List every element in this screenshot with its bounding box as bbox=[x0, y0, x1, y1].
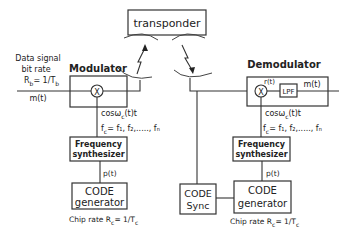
transponder-block: transponder bbox=[128, 10, 206, 35]
modulator-mixer-icon: X bbox=[91, 85, 103, 97]
svg-text:CODE: CODE bbox=[248, 185, 277, 196]
rx-input-line bbox=[190, 78, 255, 91]
rx-chip-rate-label: Chip rate Rc= 1/Tc bbox=[230, 217, 299, 228]
signal-out-label: m(t) bbox=[303, 80, 320, 89]
tx-pn-label: p(t) bbox=[103, 169, 117, 178]
rx-frequency-synthesizer-block: Frequency synthesizer bbox=[233, 137, 290, 161]
rx-freq-set-label: fc= f₁, f₂,....., fₙ bbox=[263, 124, 322, 135]
tx-code-generator-block: CODE generator bbox=[72, 183, 127, 209]
rx-code-generator-block: CODE generator bbox=[234, 181, 291, 213]
input-label-line2: bit rate bbox=[21, 65, 50, 74]
svg-text:generator: generator bbox=[238, 198, 288, 209]
code-sync-block: CODE Sync bbox=[180, 184, 216, 214]
tx-frequency-synthesizer-block: Frequency synthesizer bbox=[70, 137, 127, 161]
svg-text:Rb= 1/Tb: Rb= 1/Tb bbox=[24, 76, 59, 87]
lpf-block: LPF bbox=[280, 84, 297, 97]
modulator-label: Modulator bbox=[69, 63, 127, 74]
svg-text:synthesizer: synthesizer bbox=[72, 150, 124, 159]
demodulator-mixer-icon: X bbox=[255, 85, 267, 97]
svg-text:Sync: Sync bbox=[187, 200, 210, 211]
svg-text:LPF: LPF bbox=[282, 88, 294, 96]
mixer-output-label: r(t) bbox=[264, 78, 275, 86]
rx-pn-label: p(t) bbox=[266, 169, 280, 178]
tx-freq-set-label: fc= f₁, f₂,....., fₙ bbox=[101, 124, 160, 135]
transponder-label: transponder bbox=[133, 17, 201, 30]
demodulator-label: Demodulator bbox=[247, 59, 320, 70]
svg-text:Frequency: Frequency bbox=[238, 140, 286, 149]
svg-text:X: X bbox=[258, 88, 264, 97]
svg-text:Frequency: Frequency bbox=[75, 140, 123, 149]
fhss-block-diagram: transponder Data signal bit rate Rb= 1/T… bbox=[0, 0, 339, 240]
tx-carrier-label: cosωc(t)t bbox=[101, 109, 137, 120]
svg-text:CODE: CODE bbox=[184, 188, 211, 199]
tx-chip-rate-label: Chip rate Rc= 1/Tc bbox=[69, 215, 138, 226]
svg-text:synthesizer: synthesizer bbox=[235, 150, 287, 159]
rx-carrier-label: cosωc(t)t bbox=[265, 109, 301, 120]
bit-rate-formula: Rb= 1/Tb bbox=[24, 76, 59, 87]
svg-text:X: X bbox=[94, 88, 100, 97]
svg-text:CODE: CODE bbox=[85, 186, 114, 197]
input-label-line1: Data signal bbox=[15, 54, 60, 63]
signal-in-label: m(t) bbox=[29, 94, 46, 103]
receive-antenna-icon bbox=[172, 34, 212, 77]
svg-text:generator: generator bbox=[75, 197, 125, 208]
